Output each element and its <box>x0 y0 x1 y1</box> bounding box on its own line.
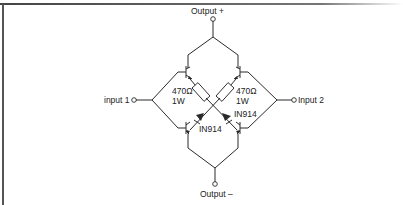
diode-part-label: IN914 <box>199 124 222 134</box>
output-plus-terminal: Output + <box>188 6 238 68</box>
transistor-upper-right <box>234 66 248 79</box>
circuit-diagram: Output + input 1 Input 2 <box>0 0 403 205</box>
output-minus-terminal: Output – <box>188 148 238 199</box>
resistor-value-label: 470Ω <box>236 86 257 96</box>
frame-border <box>0 3 403 205</box>
resistor-power-label: 1W <box>236 96 249 106</box>
terminal-circle-icon <box>292 98 297 103</box>
terminal-circle-icon <box>213 182 218 187</box>
transistor-upper-left <box>178 66 192 79</box>
input1-terminal: input 1 <box>104 72 178 128</box>
transistor-lower-right <box>236 122 248 148</box>
transistor-lower-left <box>178 122 190 148</box>
input1-label: input 1 <box>104 95 130 105</box>
resistor-power-label: 1W <box>172 96 185 106</box>
input2-label: Input 2 <box>298 95 324 105</box>
terminal-circle-icon <box>211 17 216 22</box>
input2-terminal: Input 2 <box>248 72 324 128</box>
resistor-value-label: 470Ω <box>172 86 193 96</box>
diode-part-label: IN914 <box>234 109 257 119</box>
diode-right: IN914 <box>222 109 257 124</box>
output-minus-label: Output – <box>200 189 233 199</box>
output-plus-label: Output + <box>191 6 224 16</box>
diode-left: IN914 <box>194 113 222 134</box>
terminal-circle-icon <box>132 98 137 103</box>
